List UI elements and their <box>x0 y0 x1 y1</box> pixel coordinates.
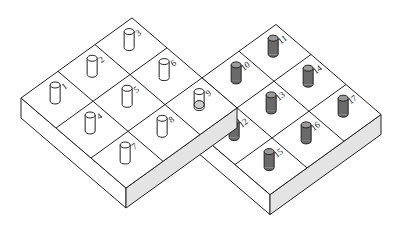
peg-base <box>120 161 130 164</box>
peg-icon <box>124 29 134 35</box>
peg-icon <box>85 112 95 118</box>
peg-base <box>124 48 134 51</box>
peg-base <box>268 54 278 57</box>
peg-base <box>122 104 132 107</box>
peg-icon <box>120 142 130 148</box>
peg-icon <box>87 55 97 61</box>
peg-base <box>157 134 167 137</box>
peg-icon <box>157 115 167 121</box>
peg-base <box>159 78 169 81</box>
peg-base <box>301 141 311 144</box>
peg-icon <box>122 85 132 91</box>
center-hole-icon <box>194 101 204 109</box>
peg-base <box>338 114 348 117</box>
peg-base <box>303 84 313 87</box>
peg-base <box>264 168 274 171</box>
peg-base <box>266 111 276 114</box>
peg-icon <box>194 89 204 95</box>
peg-base <box>85 131 95 134</box>
peg-base <box>229 138 239 141</box>
peg-base <box>87 74 97 77</box>
peg-icon <box>159 59 169 65</box>
isometric-board-drawing: 1011121314151617123456789 <box>0 0 393 225</box>
peg-base <box>50 101 60 104</box>
peg-solitaire-board-figure: 1011121314151617123456789 <box>0 0 393 225</box>
peg-icon <box>50 82 60 88</box>
peg-base <box>231 81 241 84</box>
